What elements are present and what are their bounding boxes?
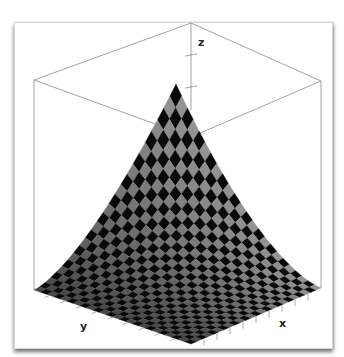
x-axis-label: x — [279, 317, 286, 330]
z-axis-label: z — [198, 36, 204, 49]
surface-plot[interactable]: z y x — [0, 0, 344, 357]
y-axis-label: y — [80, 320, 87, 333]
surface-mesh — [34, 84, 321, 344]
